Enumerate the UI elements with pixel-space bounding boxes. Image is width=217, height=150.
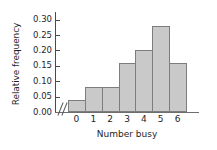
x-axis-tick-label: 2 bbox=[102, 114, 118, 125]
x-axis-tick-label: 6 bbox=[170, 114, 186, 125]
bar bbox=[68, 100, 86, 112]
x-axis-tick-label: 5 bbox=[153, 114, 169, 125]
bar bbox=[135, 50, 153, 112]
bar bbox=[152, 26, 170, 112]
x-axis-tick-label: 1 bbox=[85, 114, 101, 125]
y-axis-tick-label: 0.00 bbox=[27, 108, 52, 117]
y-axis-title: Relative frequency bbox=[11, 12, 21, 116]
y-axis-tick-label: 0.10 bbox=[27, 77, 52, 86]
y-axis-tick-label: 0.30 bbox=[27, 15, 52, 24]
y-axis-line bbox=[55, 12, 56, 113]
bar bbox=[169, 63, 187, 112]
x-axis-tick-label: 4 bbox=[136, 114, 152, 125]
y-axis-tick-label: 0.20 bbox=[27, 46, 52, 55]
y-axis-tick-mark bbox=[56, 20, 60, 21]
y-axis-tick-mark bbox=[56, 35, 60, 36]
plot-area bbox=[68, 12, 186, 112]
y-axis-tick-mark bbox=[56, 66, 60, 67]
y-axis-tick-mark bbox=[56, 50, 60, 51]
bar bbox=[119, 63, 137, 112]
relative-frequency-histogram: Relative frequency 0.000.050.100.150.200… bbox=[0, 0, 217, 150]
y-axis-tick-label: 0.15 bbox=[27, 61, 52, 70]
bar bbox=[85, 87, 103, 112]
x-axis-tick-label: 0 bbox=[68, 114, 84, 125]
y-axis-tick-mark bbox=[56, 81, 60, 82]
x-axis-tick-label: 3 bbox=[119, 114, 135, 125]
x-axis-title: Number busy bbox=[55, 129, 199, 139]
bar bbox=[102, 87, 120, 112]
y-axis-tick-mark bbox=[56, 97, 60, 98]
x-axis-line bbox=[55, 112, 199, 113]
y-axis-tick-label: 0.25 bbox=[27, 31, 52, 40]
x-axis-tick-labels: 0123456 bbox=[68, 114, 186, 126]
y-axis-tick-labels: 0.000.050.100.150.200.250.30 bbox=[26, 0, 52, 150]
y-axis-tick-label: 0.05 bbox=[27, 92, 52, 101]
